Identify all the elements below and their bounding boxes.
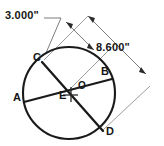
point-label-d: D (106, 126, 114, 137)
point-label-e: E (59, 90, 66, 101)
chord-c-d (42, 62, 103, 131)
point-label-o: O (78, 81, 86, 91)
point-label-c: C (33, 52, 41, 63)
dimension-label-3000: 3.000" (5, 10, 39, 21)
diagram-vector-layer (0, 0, 164, 146)
point-label-b: B (101, 66, 109, 77)
geometry-diagram-canvas: 3.000" 8.600" C B A E O D (0, 0, 164, 146)
dimension-label-8600: 8.600" (96, 42, 130, 53)
point-label-a: A (13, 92, 21, 103)
dimension-extension-lines (44, 16, 150, 130)
